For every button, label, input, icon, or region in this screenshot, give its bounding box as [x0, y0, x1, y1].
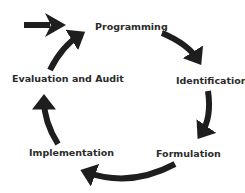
node-programming: Programming — [95, 22, 168, 32]
node-formulation: Formulation — [156, 149, 221, 159]
arrow-implementation-to-evaluation-icon — [44, 100, 58, 144]
policy-cycle-diagram: Programming Identification Formulation I… — [0, 0, 245, 193]
arrow-identification-to-formulation-icon — [201, 91, 209, 134]
node-implementation: Implementation — [29, 148, 114, 158]
arrow-programming-to-identification-icon — [162, 33, 198, 60]
arrow-formulation-to-implementation-icon — [86, 164, 175, 178]
entry-arrow-icon — [24, 13, 66, 37]
arrow-evaluation-to-programming-icon — [50, 35, 80, 70]
node-evaluation-and-audit: Evaluation and Audit — [12, 74, 124, 84]
node-identification: Identification — [176, 76, 245, 86]
